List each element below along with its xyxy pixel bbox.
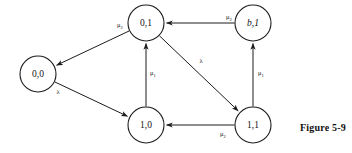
figure-caption: Figure 5-9: [300, 122, 346, 133]
edge-label-mu2-top-left: μ2: [117, 21, 124, 29]
figure-container: μ2 μ2 μ1 μ1 λ μ2 λ: [0, 0, 352, 153]
edge-lambda-n00-to-n10: λ: [55, 82, 128, 116]
node-label-0-0: 0,0: [32, 69, 44, 79]
edge-label-lambda-center: λ: [199, 57, 203, 64]
node-1-1[interactable]: 1,1: [235, 107, 271, 143]
edge-mu1-n11-to-nb1: μ1: [253, 44, 265, 107]
edge-lambda-n01-to-n11: λ: [159, 36, 238, 111]
node-label-b-1: b,1: [247, 18, 259, 28]
edge-label-mu2-top-right: μ2: [226, 13, 233, 21]
node-label-0-1: 0,1: [140, 18, 152, 28]
edge-label-mu1-right: μ1: [258, 69, 265, 77]
edge-mu2-nb1-to-n01: μ2: [167, 13, 235, 23]
edge-mu1-n10-to-n01: μ1: [146, 44, 157, 107]
node-b-1[interactable]: b,1: [235, 5, 271, 41]
edge-mu2-n01-to-n00: μ2: [57, 21, 130, 65]
edge-label-mu1-center: μ1: [150, 69, 157, 77]
edge-label-mu2-bottom: μ2: [220, 130, 227, 138]
node-0-0[interactable]: 0,0: [20, 56, 56, 92]
node-label-1-1: 1,1: [247, 120, 259, 130]
edge-label-lambda-left: λ: [56, 88, 60, 95]
edge-mu2-n11-to-n10: μ2: [167, 125, 235, 139]
node-0-1[interactable]: 0,1: [128, 5, 164, 41]
node-1-0[interactable]: 1,0: [128, 107, 164, 143]
node-label-1-0: 1,0: [140, 120, 152, 130]
